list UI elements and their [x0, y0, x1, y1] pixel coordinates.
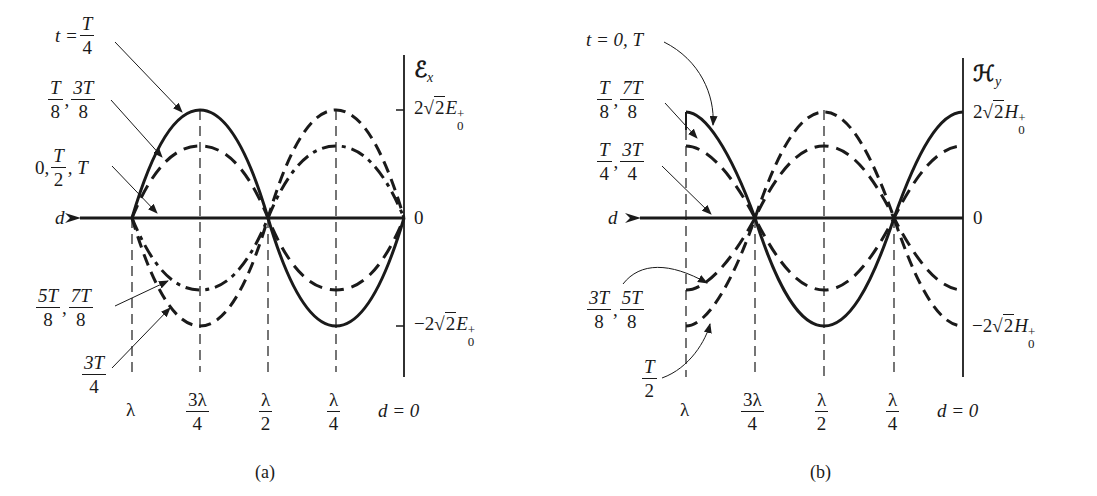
label-b-t-three-eighth: 3T8, 5T8: [587, 288, 644, 331]
panel-b-gridlines: [686, 110, 894, 377]
label-b-t-eighth: T8, 7T8: [597, 78, 644, 121]
label-a-t-three-quarter: 3T4: [82, 353, 106, 396]
label-b-t-quarter: T4, 3T4: [597, 140, 644, 183]
caption-a: (a): [255, 463, 275, 481]
y-zero-b: 0: [973, 208, 983, 227]
label-a-t-eighth: T8, 3T8: [48, 78, 95, 121]
x-tick-b-lambda: λ: [680, 400, 689, 419]
x-origin-a: d = 0: [378, 401, 419, 420]
label-a-t-five-eighth: 5T8, 7T8: [36, 286, 93, 329]
x-tick-a-quarter-lambda: λ4: [327, 390, 340, 433]
x-axis-var-b: d: [608, 208, 618, 227]
panel-a-plot: [80, 42, 404, 377]
x-tick-a-half-lambda: λ2: [259, 390, 272, 433]
x-origin-b: d = 0: [937, 401, 978, 420]
label-b-t-half: T2: [642, 357, 657, 400]
caption-b: (b): [810, 463, 831, 481]
panel-a-annotation-arrows: [111, 42, 182, 368]
x-tick-b-half-lambda: λ2: [815, 390, 828, 433]
x-tick-b-three-quarter-lambda: 3λ4: [741, 390, 764, 433]
y-bottom-value-b: −2√2H+0: [972, 316, 1035, 351]
x-tick-a-three-quarter-lambda: 3λ4: [186, 390, 209, 433]
x-axis-var-a: d: [55, 208, 65, 227]
figure-canvas: [0, 0, 1097, 496]
y-top-value-b: 2√2H+0: [973, 102, 1026, 137]
panel-a-gridlines: [132, 110, 336, 372]
label-a-t-zero: 0, T2, T: [35, 146, 88, 189]
x-tick-a-lambda: λ: [126, 400, 135, 419]
y-axis-title-a: ℰx: [414, 58, 433, 85]
y-top-value-a: 2√2E+0: [414, 98, 464, 133]
y-axis-title-b: ℋy: [973, 62, 1001, 89]
panel-b-plot: [623, 42, 963, 378]
y-bottom-value-a: −2√2E+0: [414, 314, 475, 349]
y-zero-a: 0: [414, 208, 424, 227]
label-a-t-quarter: t = T4: [55, 14, 94, 57]
x-tick-b-quarter-lambda: λ4: [886, 390, 899, 433]
label-b-t-zero: t = 0, T: [586, 30, 643, 49]
